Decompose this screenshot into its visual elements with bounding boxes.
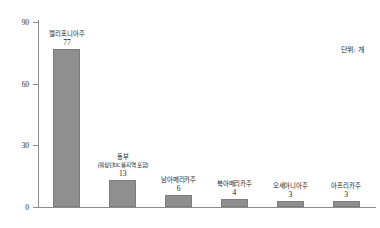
y-tick-mark [33, 207, 38, 208]
bar [53, 49, 80, 207]
bar [221, 199, 248, 207]
bar [277, 201, 304, 207]
bar-value-number: 3 [286, 191, 380, 199]
y-tick-mark [33, 84, 38, 85]
bar-chart: 0306090 캘리포니아주77동부(워싱턴DC를 지역 포함)13남아메리카주… [0, 0, 380, 228]
x-axis-baseline [38, 207, 376, 208]
y-tick-mark [33, 145, 38, 146]
y-tick-mark [33, 22, 38, 23]
bar-category-name: 동부 [63, 153, 183, 161]
y-tick-label: 30 [22, 141, 29, 150]
bar-category-name: 아프리카주 [286, 182, 380, 190]
y-tick-label: 90 [22, 18, 29, 27]
bar-value-label: 캘리포니아주77 [7, 30, 127, 47]
bar-value-label: 아프리카주3 [286, 182, 380, 199]
footer-strip [0, 218, 380, 228]
bar-category-name: 캘리포니아주 [7, 30, 127, 38]
bar-value-number: 77 [7, 39, 127, 47]
y-tick-label: 0 [25, 203, 29, 212]
y-tick-label: 60 [22, 79, 29, 88]
unit-note: 단위: 개 [341, 44, 364, 54]
y-axis-line [38, 20, 39, 208]
bar [333, 201, 360, 207]
